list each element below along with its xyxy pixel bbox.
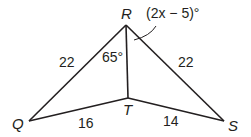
side-label-qr: 22: [59, 54, 75, 70]
segment-rs: [126, 25, 224, 121]
segment-rt: [126, 25, 128, 98]
geometry-diagram: R T Q S 22 22 16 14 65° (2x − 5)°: [0, 0, 251, 137]
vertex-label-r: R: [121, 5, 132, 22]
vertex-label-q: Q: [12, 115, 24, 132]
vertex-label-s: S: [228, 117, 238, 134]
angle-leader-line: [134, 26, 156, 40]
angle-label-trs: (2x − 5)°: [146, 5, 199, 21]
side-label-rs: 22: [178, 54, 194, 70]
side-label-qt: 16: [78, 115, 94, 131]
vertex-label-t: T: [123, 101, 134, 118]
segment-qr: [29, 25, 126, 121]
angle-label-qrt: 65°: [102, 49, 123, 65]
side-label-ts: 14: [163, 113, 179, 129]
